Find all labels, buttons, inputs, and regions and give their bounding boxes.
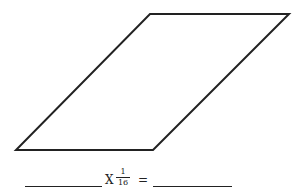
parallelogram-figure	[0, 0, 295, 160]
fraction-denominator: 16	[116, 178, 130, 187]
multiply-sign: X	[105, 174, 114, 186]
scale-fraction: 1 16	[116, 168, 130, 187]
equals-sign: =	[138, 174, 148, 186]
answer-blank-left[interactable]	[25, 186, 102, 187]
fraction-numerator: 1	[116, 168, 130, 178]
parallelogram-outline	[16, 14, 289, 150]
answer-blank-right[interactable]	[153, 186, 232, 187]
